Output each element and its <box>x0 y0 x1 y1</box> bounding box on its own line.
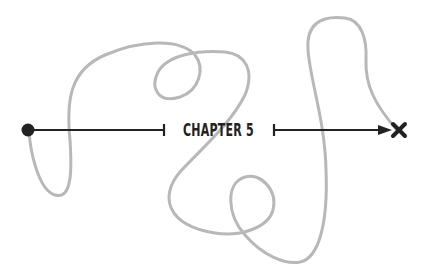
chapter-title: CHAPTER 5 <box>183 117 241 143</box>
chapter-diagram: CHAPTER 5 <box>0 0 430 277</box>
start-dot-icon <box>22 124 35 137</box>
arrowhead-icon <box>378 125 392 135</box>
end-x-icon <box>393 124 405 136</box>
